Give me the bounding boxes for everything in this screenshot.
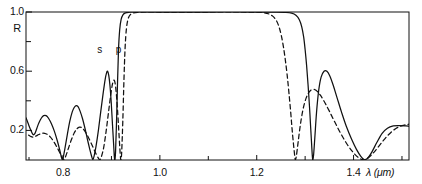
reflectance-spectrum-figure: 1.0 0.6 0.2 R 0.8 1.0 1.2 1.4 λ (μm) s p [0,0,422,184]
y-tick-label-0.2: 0.2 [0,123,24,135]
x-axis-ticks [29,155,402,160]
x-tick-label-1.2: 1.2 [242,166,272,178]
curve-label-p: p [116,44,121,55]
curve-label-s: s [97,44,102,55]
y-axis-ticks [26,12,32,130]
plot-canvas [0,0,422,184]
data-curves [26,12,409,160]
y-tick-label-1.0: 1.0 [0,5,24,17]
y-tick-label-0.6: 0.6 [0,64,24,76]
y-axis-title: R [9,22,25,34]
x-tick-label-1.0: 1.0 [145,166,175,178]
x-axis-title: λ (μm) [366,166,394,178]
x-tick-label-1.4: 1.4 [339,166,369,178]
x-tick-label-0.8: 0.8 [48,166,78,178]
curve-p-polarization [29,12,409,160]
curve-s-polarization [26,12,409,160]
